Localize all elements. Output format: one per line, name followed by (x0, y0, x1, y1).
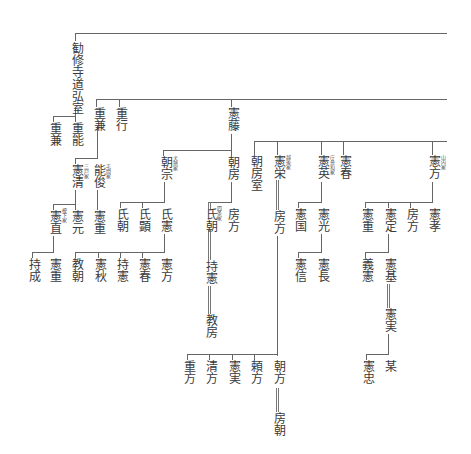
house-note: 犬懸家 (172, 156, 177, 171)
node: 重能 (68, 122, 82, 146)
line (119, 99, 120, 107)
line (277, 236, 278, 356)
line (97, 190, 98, 210)
node: 重方 (180, 360, 194, 384)
node: 某 (381, 360, 395, 372)
line (432, 182, 433, 202)
node: 房朝 (270, 412, 284, 436)
node: 憲春 (336, 155, 350, 179)
adoption-line (387, 284, 390, 308)
line (75, 190, 76, 204)
line (388, 334, 389, 354)
node: 憲英 (314, 155, 328, 179)
second-line (96, 99, 447, 100)
node: 重兼 (90, 107, 104, 131)
line (53, 204, 76, 205)
top-line (75, 33, 447, 34)
adoption-line (208, 286, 211, 314)
line (365, 252, 389, 253)
node: 憲方 (425, 155, 439, 179)
line (32, 252, 54, 253)
node: 氏顕 (135, 208, 149, 232)
line (75, 33, 76, 41)
node: 憲忠 (359, 360, 373, 384)
line (231, 99, 232, 107)
node: 重兼 (46, 122, 60, 146)
line (231, 134, 232, 150)
line (231, 182, 232, 202)
adoption-line (208, 230, 211, 260)
line (298, 202, 322, 203)
node: 能俊 (90, 164, 104, 188)
node: 朝房室 (247, 155, 261, 191)
node: 教房 (202, 314, 216, 338)
node: 憲重 (358, 208, 372, 232)
node: 憲栄 (270, 155, 284, 179)
node: 憲元 (68, 210, 82, 234)
node: 重行 (112, 107, 126, 131)
node: 氏朝 (202, 208, 216, 232)
line (298, 252, 322, 253)
house-note: 三戸家 (83, 164, 88, 179)
line (163, 150, 232, 151)
adoption-line (276, 388, 279, 412)
node: 房方 (403, 208, 417, 232)
house-note: 越後家 (285, 155, 290, 170)
node: 持憲 (202, 260, 216, 284)
line (388, 234, 389, 252)
node: 憲信 (291, 258, 305, 282)
line (75, 158, 98, 159)
line (209, 202, 232, 203)
node: 憲実 (225, 360, 239, 384)
node: 氏憲 (157, 208, 171, 232)
node: 房方 (270, 210, 284, 234)
node: 憲秋 (91, 258, 105, 282)
node: 朝房 (224, 156, 238, 180)
node: 義憲 (358, 258, 372, 282)
line (277, 141, 278, 155)
node: 憲光 (314, 208, 328, 232)
house-note: 宅間家 (105, 164, 110, 179)
line (432, 141, 433, 155)
node: 朝宗 (157, 156, 171, 180)
adoption-line (276, 180, 279, 210)
line (53, 236, 54, 252)
house-note: 榎下家 (61, 208, 66, 223)
line (343, 141, 344, 155)
node: 持成 (25, 258, 39, 282)
node: 氏朝 (113, 208, 127, 232)
line (366, 354, 389, 355)
node: 憲重 (46, 258, 60, 282)
line (164, 234, 165, 252)
node: 清方 (202, 360, 216, 384)
house-note: 山内家 (440, 155, 445, 170)
node: 憲方 (157, 258, 171, 282)
node: 房方 (224, 208, 238, 232)
line (53, 116, 76, 117)
house-note: 四条家 (216, 206, 221, 221)
node: 憲実 (381, 308, 395, 332)
node: 憲定 (381, 208, 395, 232)
house-note: 庁鼻和家 (329, 155, 334, 175)
node: 憲春 (135, 258, 149, 282)
node: 憲藤 (224, 107, 238, 131)
node: 憲直 (46, 210, 60, 234)
node: 憲基 (381, 258, 395, 282)
line (254, 141, 447, 142)
node: 教朝 (68, 258, 82, 282)
node: 持憲 (113, 258, 127, 282)
line (321, 182, 322, 202)
line (321, 234, 322, 252)
line (365, 202, 433, 203)
node: 憲重 (90, 210, 104, 234)
node: 憲孝 (425, 208, 439, 232)
node: 頼方 (247, 360, 261, 384)
node: 憲国 (291, 208, 305, 232)
node-root: 勧修寺道弘室 (68, 42, 82, 114)
line (164, 182, 165, 202)
node: 朝方 (270, 360, 284, 384)
line (254, 141, 255, 155)
line (321, 141, 322, 155)
node: 憲長 (314, 258, 328, 282)
line (96, 99, 97, 107)
